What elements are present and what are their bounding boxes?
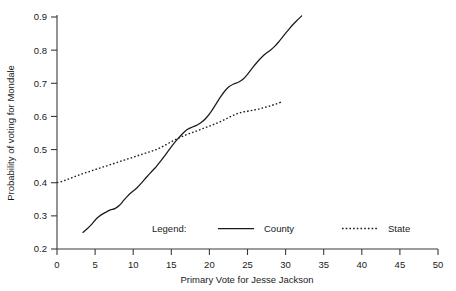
series-line-county xyxy=(83,16,302,232)
x-tick-label: 15 xyxy=(166,259,177,270)
x-tick-label: 30 xyxy=(280,259,291,270)
x-axis-ticks: 05101520253035404550 xyxy=(54,249,443,270)
y-tick-label: 0.9 xyxy=(34,11,47,22)
x-tick-label: 0 xyxy=(54,259,59,270)
y-tick-label: 0.5 xyxy=(34,144,47,155)
x-tick-label: 50 xyxy=(433,259,444,270)
y-tick-label: 0.4 xyxy=(34,177,47,188)
x-tick-label: 25 xyxy=(242,259,253,270)
x-axis-title: Primary Vote for Jesse Jackson xyxy=(180,274,313,285)
y-tick-label: 0.8 xyxy=(34,45,47,56)
chart-plot-area: 0.20.30.40.50.60.70.80.9 051015202530354… xyxy=(0,0,456,291)
legend-label-state: State xyxy=(388,223,410,234)
chart-legend: Legend: County State xyxy=(152,223,410,234)
y-tick-label: 0.2 xyxy=(34,243,47,254)
x-tick-label: 35 xyxy=(318,259,329,270)
legend-title: Legend: xyxy=(152,223,186,234)
y-tick-label: 0.6 xyxy=(34,111,47,122)
y-tick-label: 0.3 xyxy=(34,210,47,221)
y-axis-title: Probability of voting for Mondale xyxy=(5,65,16,201)
y-tick-label: 0.7 xyxy=(34,78,47,89)
x-tick-label: 5 xyxy=(92,259,97,270)
y-axis-ticks: 0.20.30.40.50.60.70.80.9 xyxy=(34,11,57,254)
chart-figure: 0.20.30.40.50.60.70.80.9 051015202530354… xyxy=(0,0,456,291)
series-line-state xyxy=(57,102,283,183)
x-tick-label: 10 xyxy=(128,259,139,270)
x-tick-label: 20 xyxy=(204,259,215,270)
x-tick-label: 45 xyxy=(395,259,406,270)
legend-label-county: County xyxy=(264,223,294,234)
x-tick-label: 40 xyxy=(357,259,368,270)
